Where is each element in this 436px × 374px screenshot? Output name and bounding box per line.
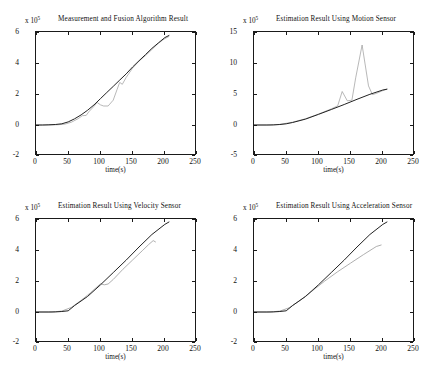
- series-svg: [254, 219, 413, 341]
- exponent-mantissa: x 10: [25, 17, 38, 25]
- x-axis-label: time(s): [35, 166, 196, 174]
- x-tick-label: 250: [407, 344, 418, 353]
- series-reference: [254, 89, 387, 125]
- x-tick-label: 50: [63, 344, 71, 353]
- y-tick-label: 0: [15, 120, 19, 129]
- exponent-mantissa: x 10: [25, 204, 38, 212]
- y-axis-exponent-label: x 105: [243, 15, 258, 25]
- plot-curves: [36, 219, 195, 341]
- series-svg: [254, 32, 413, 154]
- y-tick-label: -2: [13, 150, 19, 159]
- plot-axes-box: [253, 218, 414, 342]
- plot-axes-box: [35, 31, 196, 155]
- y-axis-exponent-label: x 105: [25, 202, 40, 212]
- subplot-motion-sensor: x 105 Estimation Result Using Motion Sen…: [218, 0, 436, 187]
- x-tick-label: 0: [251, 344, 255, 353]
- x-tick-label: 250: [189, 344, 200, 353]
- x-tick-label: 200: [157, 157, 168, 166]
- exponent-mantissa: x 10: [243, 17, 256, 25]
- y-tick-label: -2: [13, 337, 19, 346]
- x-tick-label: 200: [375, 157, 386, 166]
- subplot-title: Estimation Result Using Motion Sensor: [276, 15, 434, 23]
- series-acceleration-sensor-estimate: [254, 245, 382, 312]
- x-tick-label: 100: [93, 157, 104, 166]
- y-tick-label: 0: [15, 307, 19, 316]
- y-tick-label: 15: [229, 27, 237, 36]
- series-raw-measurement: [36, 36, 169, 125]
- x-tick-label: 150: [125, 157, 136, 166]
- y-tick-label: 4: [15, 245, 19, 254]
- series-velocity-sensor-estimate: [36, 241, 156, 312]
- x-tick-label: 100: [311, 157, 322, 166]
- x-tick-label: 150: [343, 157, 354, 166]
- plot-axes-box: [35, 218, 196, 342]
- y-tick-label: 4: [233, 245, 237, 254]
- exponent-power: 5: [38, 15, 41, 21]
- x-tick-label: 150: [343, 344, 354, 353]
- x-tick-label: 200: [157, 344, 168, 353]
- x-tick-label: 0: [251, 157, 255, 166]
- plot-curves: [254, 219, 413, 341]
- series-svg: [36, 32, 195, 154]
- series-reference: [254, 222, 387, 312]
- x-tick-label: 200: [375, 344, 386, 353]
- y-tick-label: 10: [229, 58, 237, 67]
- x-tick-label: 0: [33, 157, 37, 166]
- x-tick-label: 250: [407, 157, 418, 166]
- x-axis-label: time(s): [253, 166, 414, 174]
- y-tick-label: -2: [231, 337, 237, 346]
- series-reference: [36, 222, 169, 312]
- x-tick-label: 250: [189, 157, 200, 166]
- y-tick-label: 0: [233, 120, 237, 129]
- series-motion-sensor-estimate: [254, 45, 387, 125]
- series-fusion-estimate: [36, 35, 169, 125]
- y-tick-label: 0: [233, 307, 237, 316]
- x-axis-label: time(s): [253, 353, 414, 361]
- x-tick-label: 0: [33, 344, 37, 353]
- x-tick-label: 50: [281, 344, 289, 353]
- y-tick-label: 2: [233, 276, 237, 285]
- y-tick-label: 2: [15, 276, 19, 285]
- x-tick-label: 100: [93, 344, 104, 353]
- subplot-acceleration-sensor: x 105 Estimation Result Using Accelerati…: [218, 187, 436, 374]
- plot-curves: [254, 32, 413, 154]
- y-tick-label: 6: [15, 214, 19, 223]
- y-tick-label: -5: [231, 150, 237, 159]
- exponent-power: 5: [38, 202, 41, 208]
- figure-canvas: x 105 Measurement and Fusion Algorithm R…: [0, 0, 436, 374]
- exponent-power: 5: [256, 15, 259, 21]
- y-tick-label: 6: [15, 27, 19, 36]
- subplot-title: Measurement and Fusion Algorithm Result: [58, 15, 216, 23]
- y-tick-label: 5: [233, 89, 237, 98]
- exponent-power: 5: [256, 202, 259, 208]
- x-tick-label: 50: [281, 157, 289, 166]
- y-tick-label: 4: [15, 58, 19, 67]
- plot-axes-box: [253, 31, 414, 155]
- exponent-mantissa: x 10: [243, 204, 256, 212]
- series-svg: [36, 219, 195, 341]
- y-tick-label: 2: [15, 89, 19, 98]
- subplot-title: Estimation Result Using Acceleration Sen…: [276, 202, 434, 210]
- subplot-velocity-sensor: x 105 Estimation Result Using Velocity S…: [0, 187, 218, 374]
- y-axis-exponent-label: x 105: [243, 202, 258, 212]
- x-tick-label: 50: [63, 157, 71, 166]
- y-tick-label: 6: [233, 214, 237, 223]
- plot-curves: [36, 32, 195, 154]
- y-axis-exponent-label: x 105: [25, 15, 40, 25]
- x-tick-label: 150: [125, 344, 136, 353]
- subplot-measurement-and-fusion: x 105 Measurement and Fusion Algorithm R…: [0, 0, 218, 187]
- x-tick-label: 100: [311, 344, 322, 353]
- subplot-title: Estimation Result Using Velocity Sensor: [58, 202, 216, 210]
- x-axis-label: time(s): [35, 353, 196, 361]
